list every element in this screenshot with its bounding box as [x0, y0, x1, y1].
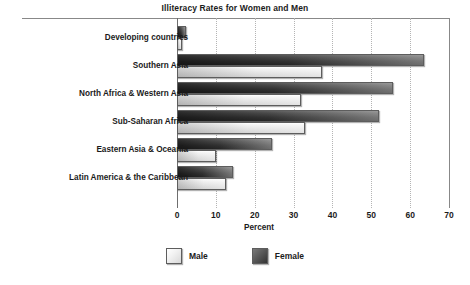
x-tick-50: 50 — [356, 210, 386, 220]
x-tick-40: 40 — [317, 210, 347, 220]
chart-screenshot: Illiteracy Rates for Women and Men Devel… — [0, 0, 470, 285]
gridline-60 — [410, 18, 411, 208]
x-axis-title: Percent — [0, 223, 470, 232]
bar-male-2[interactable] — [177, 94, 301, 106]
category-label-2: North Africa & Western Asia — [0, 89, 188, 98]
legend-label-male: Male — [189, 251, 208, 261]
x-tick-20: 20 — [240, 210, 270, 220]
x-tick-70: 70 — [434, 210, 464, 220]
legend-item-male[interactable]: Male — [166, 248, 208, 264]
legend-item-female[interactable]: Female — [252, 248, 304, 264]
category-label-0: Developing countries — [0, 33, 188, 42]
plot-right-border — [449, 18, 450, 208]
category-label-4: Eastern Asia & Oceania — [0, 145, 188, 154]
category-label-5: Latin America & the Caribbean — [0, 173, 188, 182]
category-label-1: Southern Asia — [0, 61, 188, 70]
chart-legend: Male Female — [0, 248, 470, 264]
legend-label-female: Female — [275, 251, 304, 261]
bar-female-2[interactable] — [177, 82, 393, 94]
female-swatch-icon — [252, 248, 268, 264]
chart-title: Illiteracy Rates for Women and Men — [0, 3, 470, 13]
bar-female-3[interactable] — [177, 110, 379, 122]
x-tick-10: 10 — [201, 210, 231, 220]
x-tick-30: 30 — [279, 210, 309, 220]
male-swatch-icon — [166, 248, 182, 264]
x-axis-title-text: Percent — [244, 223, 274, 232]
category-label-3: Sub-Saharan Africa — [0, 117, 188, 126]
x-tick-0: 0 — [162, 210, 192, 220]
bar-female-4[interactable] — [177, 138, 272, 150]
bar-male-3[interactable] — [177, 122, 305, 134]
plot-top-border — [22, 18, 450, 19]
bar-female-1[interactable] — [177, 54, 424, 66]
x-tick-60: 60 — [395, 210, 425, 220]
bar-male-1[interactable] — [177, 66, 322, 78]
